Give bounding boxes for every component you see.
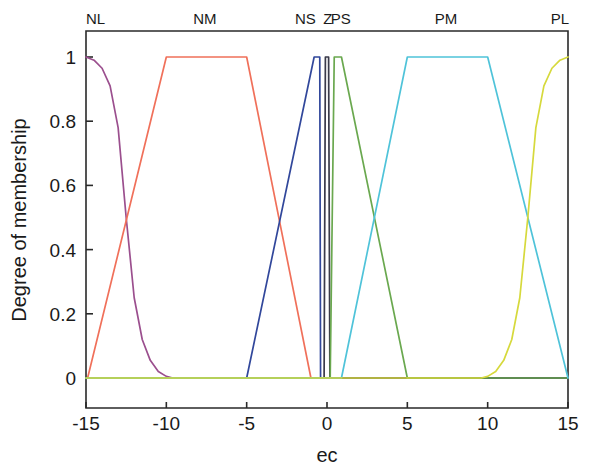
membership-curves (86, 57, 568, 378)
x-tick-label: 10 (477, 413, 498, 434)
mf-curve-pl (86, 57, 568, 378)
y-tick-label: 0.2 (50, 304, 76, 325)
mf-curve-ps (86, 57, 568, 378)
x-tick-label: 5 (402, 413, 413, 434)
mf-curve-nl (86, 57, 568, 378)
x-tick-label: 15 (557, 413, 578, 434)
x-axis-title: ec (316, 444, 337, 466)
mf-label-pl: PL (551, 10, 569, 27)
mf-label-nm: NM (193, 10, 216, 27)
mf-label-ps: PS (331, 10, 351, 27)
y-tick-label: 0.6 (50, 175, 76, 196)
y-tick-label: 1 (65, 47, 76, 68)
mf-label-nl: NL (86, 10, 105, 27)
y-tick-label: 0.4 (50, 240, 77, 261)
y-axis-tick-labels: 00.20.40.60.81 (50, 47, 77, 389)
y-tick-label: 0.8 (50, 111, 76, 132)
mf-label-ns: NS (295, 10, 316, 27)
mf-curve-z (86, 57, 568, 378)
mf-label-pm: PM (435, 10, 458, 27)
membership-function-labels: NLNMNSZPSPMPL (86, 10, 569, 27)
x-tick-label: 0 (322, 413, 333, 434)
mf-curve-nm (86, 57, 568, 378)
y-tick-label: 0 (65, 368, 76, 389)
mf-curve-pm (86, 57, 568, 378)
x-tick-label: -5 (238, 413, 255, 434)
figure-canvas: -15-10-5051015 00.20.40.60.81 NLNMNSZPSP… (0, 0, 604, 470)
mf-curve-ns (86, 57, 568, 378)
x-axis-ticks (86, 402, 568, 408)
x-tick-label: -10 (153, 413, 180, 434)
x-tick-label: -15 (72, 413, 99, 434)
x-axis-tick-labels: -15-10-5051015 (72, 413, 578, 434)
membership-function-plot: -15-10-5051015 00.20.40.60.81 NLNMNSZPSP… (0, 0, 604, 470)
y-axis-ticks (86, 57, 93, 378)
y-axis-title: Degree of membership (8, 118, 30, 321)
